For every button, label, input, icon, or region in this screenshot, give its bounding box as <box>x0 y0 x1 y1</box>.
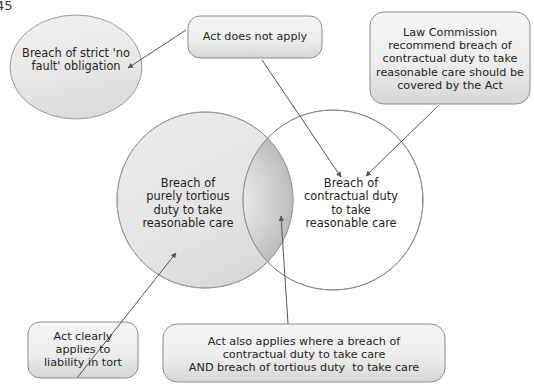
contractual-duty-circle-label: Breach of contractual duty to take reaso… <box>296 177 406 231</box>
act-also-applies-label: Act also applies where a breach of contr… <box>166 335 442 375</box>
law-commission-label: Law Commission recommend breach of contr… <box>372 26 528 92</box>
act-does-not-apply-label: Act does not apply <box>190 30 320 43</box>
strict-liability-ellipse-label: Breach of strict 'no fault' obligation <box>10 47 142 74</box>
diagram-page: 45 <box>0 0 534 385</box>
act-clearly-applies-label: Act clearly applies to liability in tort <box>31 330 135 370</box>
tortious-duty-circle-label: Breach of purely tortious duty to take r… <box>132 177 244 231</box>
